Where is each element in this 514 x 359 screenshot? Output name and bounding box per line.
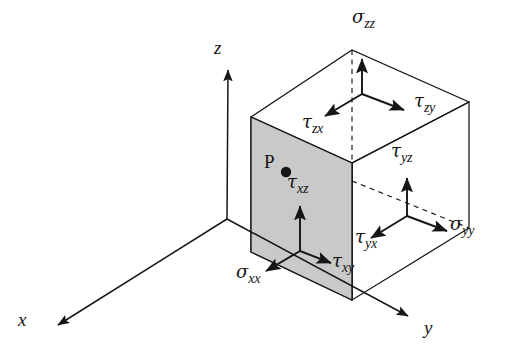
axis-label-x: x: [18, 310, 26, 329]
tau-zx-arrow: [325, 94, 362, 116]
stress-label-sigma-xx: σxx: [236, 263, 260, 281]
sigma-glyph: σ: [352, 6, 364, 27]
cube-edge-right-face: [352, 102, 469, 300]
stress-label-tau-yx: τyx: [355, 228, 377, 246]
sigma-glyph: σ: [450, 213, 462, 234]
tau-glyph: τ: [287, 171, 297, 192]
stress-diagram-canvas: [0, 0, 514, 359]
point-label-P: P: [264, 152, 275, 171]
tau-yz-subscript: yz: [401, 150, 412, 165]
stress-tensor-figure: x z y P σzz τzy τzx τyz σyy τyx τxz τxy …: [0, 0, 514, 359]
y-face-stress-arrows: [371, 178, 447, 238]
stress-label-tau-yz: τyz: [391, 142, 412, 160]
x-axis-line: [58, 219, 227, 325]
tau-glyph: τ: [332, 250, 342, 271]
stress-label-sigma-yy: σyy: [450, 215, 474, 233]
tau-zy-arrow: [362, 94, 404, 110]
tau-glyph: τ: [355, 226, 365, 247]
stress-label-tau-xy: τxy: [332, 252, 354, 270]
axis-label-z: z: [214, 38, 221, 57]
tau-glyph: τ: [302, 111, 312, 132]
tau-glyph: τ: [391, 140, 401, 161]
z-axis-line: [227, 70, 228, 219]
sigma-glyph: σ: [236, 261, 248, 282]
sigma-yy-subscript: yy: [462, 223, 474, 238]
front-x-face: [251, 117, 352, 300]
sigma-xx-subscript: xx: [248, 271, 260, 286]
tau-zx-subscript: zx: [312, 121, 323, 136]
stress-label-tau-xz: τxz: [287, 173, 308, 191]
stress-label-tau-zy: τzy: [414, 92, 435, 110]
stress-label-sigma-zz: σzz: [352, 8, 375, 26]
tau-xz-subscript: xz: [297, 181, 308, 196]
tau-zy-subscript: zy: [424, 100, 435, 115]
tau-glyph: τ: [414, 90, 424, 111]
front-x-face-fill: [251, 117, 352, 300]
coordinate-axes: [58, 70, 408, 325]
axis-label-y: y: [424, 318, 432, 337]
stress-label-tau-zx: τzx: [302, 113, 323, 131]
sigma-zz-subscript: zz: [364, 16, 374, 31]
sigma-yy-arrow: [407, 216, 447, 231]
tau-yx-subscript: yx: [365, 236, 377, 251]
tau-xy-subscript: xy: [342, 260, 354, 275]
